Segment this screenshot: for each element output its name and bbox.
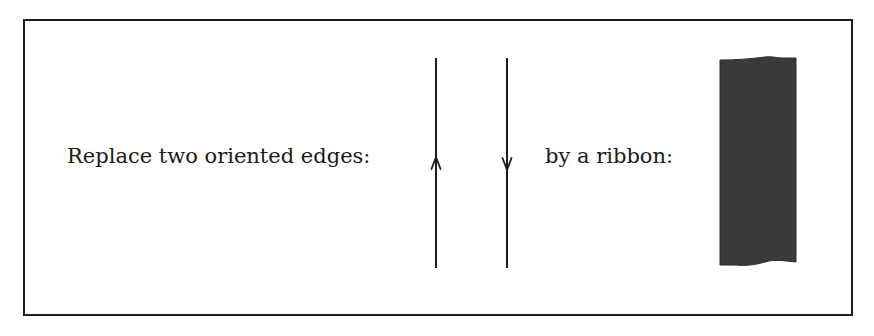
ribbon-shape xyxy=(720,57,796,266)
figure-diagram xyxy=(0,0,874,336)
oriented-edge-down xyxy=(503,58,512,268)
oriented-edge-up xyxy=(432,58,441,268)
